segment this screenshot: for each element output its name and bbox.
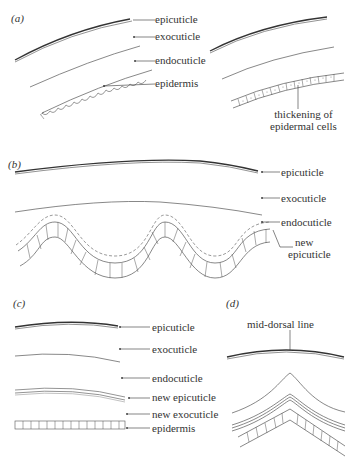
label-d-mid-dorsal-line: mid-dorsal line [247, 318, 314, 330]
label-a-epidermis: epidermis [155, 77, 198, 89]
label-b-new-epicuticle: epicuticle [288, 248, 331, 260]
panel-a-tag: (a) [11, 12, 24, 24]
label-c-new-exocuticle: new exocuticle [152, 408, 218, 420]
panel-d-tag: (d) [226, 297, 239, 309]
panel-d [227, 330, 345, 456]
label-c-endocuticle: endocuticle [152, 372, 203, 384]
label-c-epicuticle: epicuticle [152, 321, 195, 333]
label-b-exocuticle: exocuticle [281, 192, 326, 204]
label-c-exocuticle: exocuticle [152, 343, 197, 355]
panel-b [15, 160, 293, 278]
panel-b-tag: (b) [8, 158, 21, 170]
label-a-thickening-line2: epidermal cells [270, 120, 337, 132]
label-b-endocuticle: endocuticle [281, 216, 332, 228]
panel-c-tag: (c) [13, 297, 25, 309]
label-a-thickening: thickening of epidermal cells [270, 108, 337, 132]
cuticle-diagram: (a) (b) (c) (d) epicuticle exocuticle en… [0, 0, 354, 464]
panel-a-left [15, 19, 155, 119]
panel-a-right [210, 17, 344, 109]
label-a-exocuticle: exocuticle [155, 30, 200, 42]
panel-c [15, 322, 150, 429]
label-c-new-epicuticle: new epicuticle [152, 391, 216, 403]
label-a-epicuticle: epicuticle [155, 13, 198, 25]
label-b-new: new [295, 236, 313, 248]
label-a-endocuticle: endocuticle [155, 54, 206, 66]
label-c-epidermis: epidermis [152, 422, 195, 434]
label-a-thickening-line1: thickening of [270, 108, 337, 120]
label-b-epicuticle: epicuticle [281, 166, 324, 178]
